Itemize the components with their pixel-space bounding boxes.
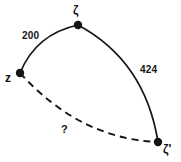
geometry-diagram: ζ z ζ' 200 424 ? [0,0,181,162]
dashed-arc-z-to-zeta-prime [20,73,158,142]
edge-label-unknown: ? [61,124,68,135]
vertex-label-z: z [5,72,11,84]
diagram-canvas [0,0,181,162]
vertex-dot-zeta-prime [154,138,162,146]
vertex-dot-z [16,69,24,77]
vertex-dot-zeta [74,21,82,29]
vertex-label-zeta: ζ [73,4,79,16]
arc-zeta-to-zeta-prime [78,25,158,142]
edge-label-200: 200 [22,31,39,41]
edge-label-424: 424 [140,65,157,75]
vertex-label-zeta-prime: ζ' [163,143,171,155]
